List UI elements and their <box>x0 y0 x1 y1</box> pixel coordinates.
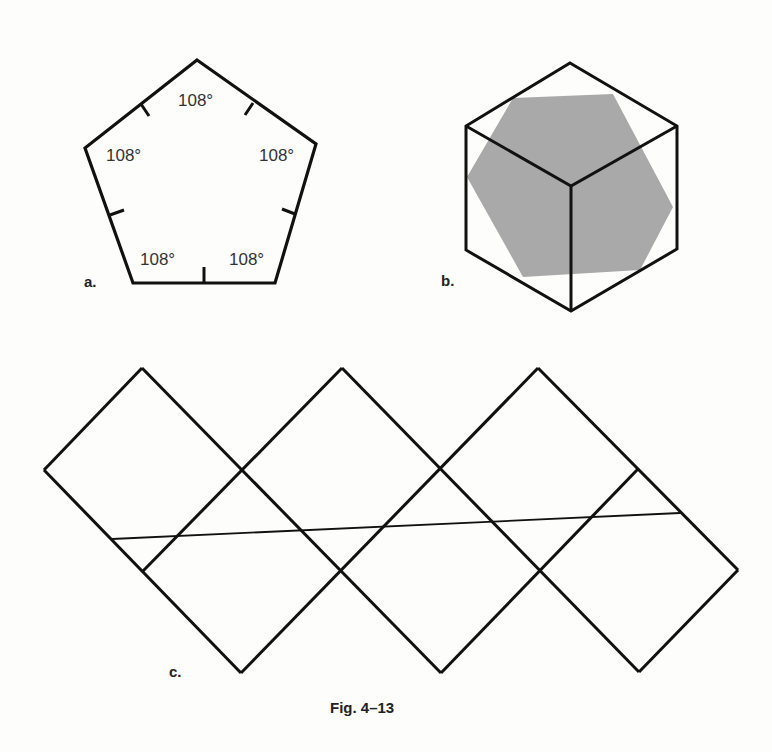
angle-label-bottom-left: 108° <box>140 250 175 269</box>
angle-label-bottom-right: 108° <box>229 250 264 269</box>
equal-side-tick-marks <box>110 103 295 283</box>
angle-label-right: 108° <box>259 146 294 165</box>
panel-b-label: b. <box>441 272 454 289</box>
figure-caption: Fig. 4–13 <box>330 699 394 716</box>
figure-canvas: 108° 108° 108° 108° 108° a. b. c. <box>0 0 772 752</box>
panel-c-net: c. <box>44 368 738 680</box>
panel-a-pentagon: 108° 108° 108° 108° 108° a. <box>84 60 316 290</box>
net-edges <box>44 368 738 673</box>
angle-label-top: 108° <box>178 91 213 110</box>
panel-c-label: c. <box>169 663 182 680</box>
angle-label-left: 108° <box>106 146 141 165</box>
panel-a-label: a. <box>84 273 97 290</box>
panel-b-cube: b. <box>441 63 677 311</box>
